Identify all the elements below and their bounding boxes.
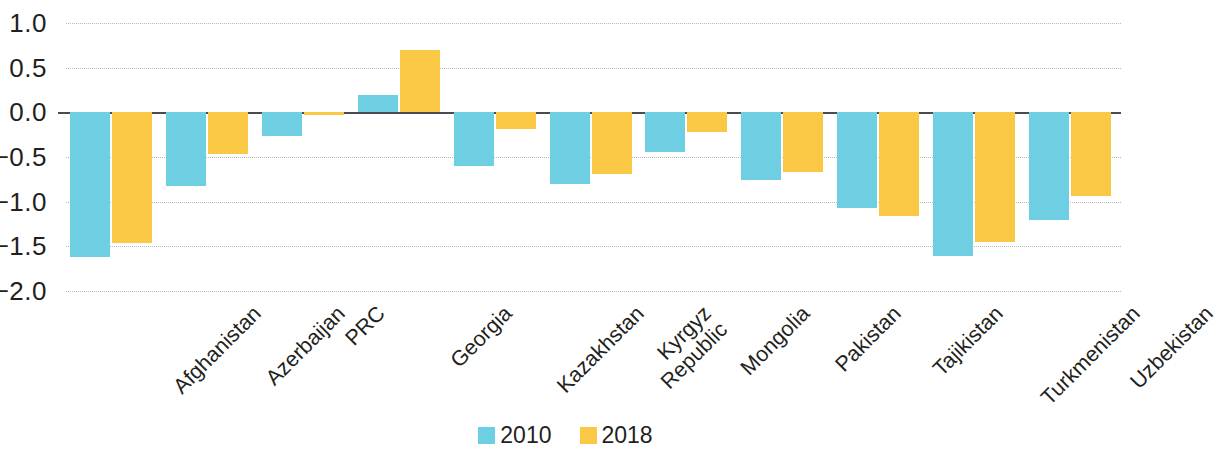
x-axis-tick-label: Mongolia bbox=[737, 302, 815, 380]
y-axis-tick-label: −0.5 bbox=[0, 142, 47, 173]
y-axis-tick-label: −2.0 bbox=[0, 276, 47, 307]
bar-2010 bbox=[166, 112, 206, 186]
bar-group bbox=[833, 23, 929, 291]
legend-item[interactable]: 2010 bbox=[478, 424, 551, 447]
x-axis-tick-label: Kazakhstan bbox=[552, 302, 648, 398]
bar-2010 bbox=[550, 112, 590, 183]
x-axis-tick-label: Azerbaijan bbox=[262, 302, 350, 390]
bar-2018 bbox=[783, 112, 823, 172]
y-axis-tick-label: −1.0 bbox=[0, 186, 47, 217]
bar-2010 bbox=[837, 112, 877, 208]
bar-2010 bbox=[358, 95, 398, 112]
bar-2018 bbox=[112, 112, 152, 242]
x-axis-tick-label: PRC bbox=[341, 302, 389, 350]
bar-2010 bbox=[1029, 112, 1069, 219]
bar-2018 bbox=[304, 112, 344, 115]
bar-2018 bbox=[400, 50, 440, 113]
bar-group bbox=[546, 23, 642, 291]
bar-2010 bbox=[262, 112, 302, 136]
bar-2010 bbox=[70, 112, 110, 257]
bar-2018 bbox=[687, 112, 727, 132]
bar-group bbox=[450, 23, 546, 291]
bar-2018 bbox=[1071, 112, 1111, 196]
plot-area: 1.00.50.0−0.5−1.0−1.5−2.0 bbox=[66, 23, 1121, 291]
bar-2018 bbox=[208, 112, 248, 154]
x-axis-tick-label: Georgia bbox=[446, 302, 516, 372]
legend-swatch-icon bbox=[580, 427, 597, 444]
x-axis-tick-label: Afghanistan bbox=[169, 302, 265, 398]
bar-group bbox=[66, 23, 162, 291]
legend-label: 2018 bbox=[602, 424, 653, 447]
bar-group bbox=[258, 23, 354, 291]
bar-2010 bbox=[933, 112, 973, 256]
bar-group bbox=[1025, 23, 1121, 291]
x-axis-tick-label: Kyrgyz Republic bbox=[640, 302, 731, 393]
y-axis-tick-label: 0.0 bbox=[0, 97, 47, 128]
bar-2018 bbox=[592, 112, 632, 174]
legend-swatch-icon bbox=[478, 427, 495, 444]
x-axis-tick-label: Tajikistan bbox=[929, 302, 1008, 381]
bar-group bbox=[641, 23, 737, 291]
legend-item[interactable]: 2018 bbox=[580, 424, 653, 447]
x-axis-tick-label: Pakistan bbox=[831, 302, 905, 376]
bar-group bbox=[929, 23, 1025, 291]
chart-legend: 20102018 bbox=[0, 424, 1131, 447]
y-axis-tick-label: 1.0 bbox=[0, 8, 47, 39]
bar-2018 bbox=[496, 112, 536, 129]
bar-2018 bbox=[879, 112, 919, 216]
bar-group bbox=[162, 23, 258, 291]
bar-group bbox=[737, 23, 833, 291]
y-axis-tick-label: −1.5 bbox=[0, 231, 47, 262]
bar-2018 bbox=[975, 112, 1015, 242]
x-axis-tick-label: Turkmenistan bbox=[1037, 302, 1145, 410]
bar-2010 bbox=[741, 112, 781, 180]
legend-label: 2010 bbox=[500, 424, 551, 447]
y-axis-tick-label: 0.5 bbox=[0, 52, 47, 83]
bar-group bbox=[354, 23, 450, 291]
bar-2010 bbox=[454, 112, 494, 166]
bar-2010 bbox=[645, 112, 685, 151]
gridline bbox=[66, 291, 1121, 292]
